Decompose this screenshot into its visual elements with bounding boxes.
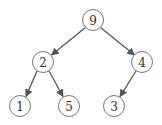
- edge-2-to-1: [26, 71, 37, 97]
- edge-9-to-4: [101, 28, 135, 56]
- node-label: 5: [65, 100, 73, 114]
- node-label: 1: [16, 100, 24, 114]
- node-label: 9: [89, 14, 97, 28]
- tree-node-4: 4: [132, 52, 153, 73]
- edge-2-to-5: [49, 71, 63, 97]
- node-label: 2: [39, 56, 47, 70]
- tree-node-3: 3: [104, 96, 125, 117]
- tree-diagram: 9 2 4 1 5 3: [0, 0, 162, 125]
- node-label: 4: [138, 56, 146, 70]
- node-label: 3: [110, 100, 118, 114]
- tree-node-5: 5: [59, 96, 80, 117]
- tree-node-9: 9: [83, 10, 104, 31]
- tree-node-1: 1: [10, 96, 31, 117]
- edge-9-to-2: [52, 28, 86, 56]
- edge-4-to-3: [120, 71, 136, 97]
- tree-node-2: 2: [33, 52, 54, 73]
